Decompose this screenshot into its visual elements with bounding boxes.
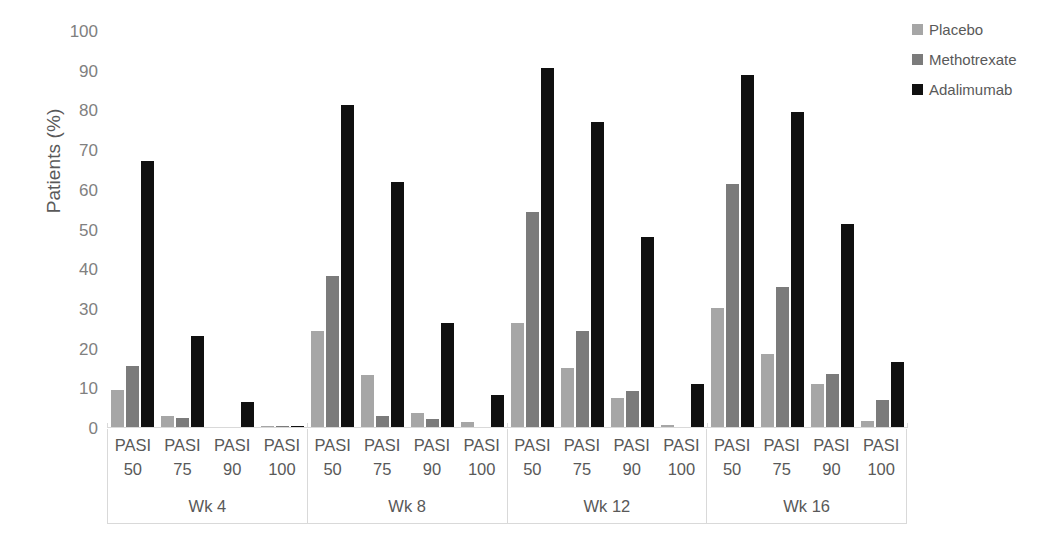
category-label-line2: 100	[657, 458, 707, 482]
bar[interactable]	[726, 184, 739, 428]
bar[interactable]	[311, 331, 324, 428]
bar[interactable]	[561, 368, 574, 428]
bar[interactable]	[591, 122, 604, 428]
category-groups: PASI50PASI75PASI90PASI100Wk 4PASI50PASI7…	[107, 429, 907, 524]
bar[interactable]	[876, 400, 889, 428]
bar[interactable]	[391, 182, 404, 428]
bar[interactable]	[341, 105, 354, 428]
y-axis-tick: 60	[56, 181, 98, 198]
bar[interactable]	[326, 276, 339, 428]
bar-cluster	[157, 31, 207, 428]
category-row: PASI50PASI75PASI90PASI100	[508, 429, 707, 489]
bar[interactable]	[526, 212, 539, 428]
bar-cluster	[757, 31, 807, 428]
legend-item[interactable]: Methotrexate	[912, 44, 1055, 74]
y-axis-tick: 100	[56, 23, 98, 40]
bar[interactable]	[441, 323, 454, 428]
category-label-line2: 90	[607, 458, 657, 482]
category-label-line1: PASI	[414, 436, 450, 454]
category-label: PASI100	[856, 429, 906, 489]
category-label: PASI75	[557, 429, 607, 489]
bar[interactable]	[826, 374, 839, 428]
category-label-line2: 100	[856, 458, 906, 482]
category-label-line2: 75	[357, 458, 407, 482]
category-label: PASI100	[657, 429, 707, 489]
category-label-line2: 50	[707, 458, 757, 482]
category-label-line2: 100	[257, 458, 307, 482]
bar[interactable]	[361, 375, 374, 428]
category-label-line1: PASI	[115, 436, 151, 454]
bar-cluster	[107, 31, 157, 428]
category-label-line2: 75	[158, 458, 208, 482]
bar-cluster	[307, 31, 357, 428]
category-label-line1: PASI	[364, 436, 400, 454]
group-label: Wk 4	[108, 489, 307, 523]
y-axis-tick: 0	[56, 420, 98, 437]
bar-cluster	[557, 31, 607, 428]
y-axis-tick: 70	[56, 142, 98, 159]
bar-group-wk-12	[507, 31, 707, 428]
bar[interactable]	[411, 413, 424, 428]
group-label: Wk 16	[707, 489, 906, 523]
category-label-line2: 75	[557, 458, 607, 482]
category-group: PASI50PASI75PASI90PASI100Wk 8	[308, 429, 508, 524]
bar[interactable]	[776, 287, 789, 428]
bar[interactable]	[511, 323, 524, 428]
legend-label: Methotrexate	[929, 51, 1017, 68]
bar[interactable]	[191, 336, 204, 428]
bar[interactable]	[761, 354, 774, 428]
group-label: Wk 12	[508, 489, 707, 523]
category-row: PASI50PASI75PASI90PASI100	[308, 429, 507, 489]
bar-cluster	[657, 31, 707, 428]
bar[interactable]	[791, 112, 804, 428]
category-label-line2: 50	[308, 458, 358, 482]
bar[interactable]	[891, 362, 904, 428]
bar-cluster	[407, 31, 457, 428]
y-axis-tick: 20	[56, 340, 98, 357]
bar[interactable]	[711, 308, 724, 428]
bar-cluster	[807, 31, 857, 428]
category-label: PASI75	[158, 429, 208, 489]
category-label-line1: PASI	[214, 436, 250, 454]
category-label: PASI90	[407, 429, 457, 489]
bar[interactable]	[611, 398, 624, 428]
bar[interactable]	[126, 366, 139, 428]
bar[interactable]	[741, 75, 754, 428]
category-label-line2: 50	[108, 458, 158, 482]
category-label-line1: PASI	[264, 436, 300, 454]
category-group: PASI50PASI75PASI90PASI100Wk 16	[707, 429, 907, 524]
y-axis-tick-labels: 1009080706050403020100	[56, 0, 98, 538]
bar[interactable]	[241, 402, 254, 428]
bar[interactable]	[811, 384, 824, 428]
category-label: PASI50	[508, 429, 558, 489]
bar-group-wk-16	[707, 31, 907, 428]
legend-swatch-icon	[912, 84, 923, 95]
legend-item[interactable]: Adalimumab	[912, 74, 1055, 104]
bar[interactable]	[691, 384, 704, 428]
bar[interactable]	[576, 331, 589, 428]
bar[interactable]	[541, 68, 554, 428]
y-axis-tick: 90	[56, 62, 98, 79]
category-label-line1: PASI	[863, 436, 899, 454]
y-axis-tick: 10	[56, 380, 98, 397]
bar[interactable]	[141, 161, 154, 428]
legend-swatch-icon	[912, 54, 923, 65]
bar[interactable]	[491, 395, 504, 428]
bar[interactable]	[841, 224, 854, 428]
category-label: PASI50	[707, 429, 757, 489]
category-label-line2: 100	[457, 458, 507, 482]
y-axis-tick: 40	[56, 261, 98, 278]
bar[interactable]	[641, 237, 654, 428]
category-label: PASI90	[607, 429, 657, 489]
bar-groups	[107, 31, 907, 428]
category-label: PASI50	[308, 429, 358, 489]
category-row: PASI50PASI75PASI90PASI100	[108, 429, 307, 489]
legend-item[interactable]: Placebo	[912, 14, 1055, 44]
x-axis-tick	[307, 423, 308, 428]
group-label: Wk 8	[308, 489, 507, 523]
bar-chart: Patients (%) 1009080706050403020100 PASI…	[0, 0, 1055, 538]
category-label: PASI75	[757, 429, 807, 489]
category-label-line1: PASI	[314, 436, 350, 454]
bar[interactable]	[626, 391, 639, 428]
bar[interactable]	[111, 390, 124, 428]
